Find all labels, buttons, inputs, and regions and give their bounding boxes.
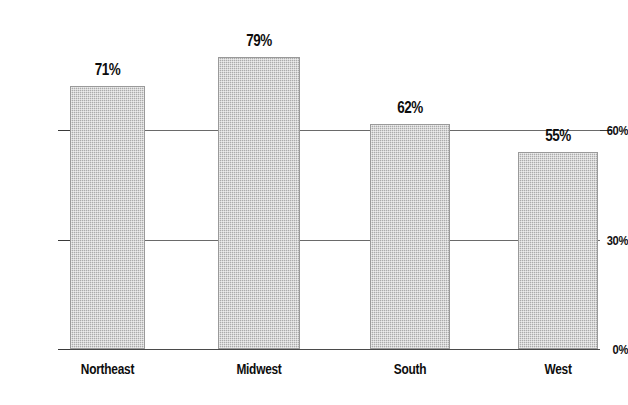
gridline-60 [70,130,600,131]
bar-chart: 0% 30% 60% 71% 79% 62% 55% Northeast Mid… [0,0,628,405]
value-label-south: 62% [376,100,443,116]
bar-northeast [70,86,145,349]
category-label-midwest: Midwest [218,362,300,376]
bar-midwest [218,57,300,349]
axis-baseline [70,349,600,350]
ytick-mark-60 [58,130,70,131]
category-label-west: West [518,362,598,376]
category-label-northeast: Northeast [67,362,148,376]
value-label-northeast: 71% [76,62,139,78]
category-label-south: South [370,362,450,376]
ytick-mark-30 [58,240,70,241]
ytick-mark-0 [58,349,70,350]
bar-south [370,124,450,349]
bar-west [518,152,598,349]
value-label-west: 55% [524,128,591,144]
plot-area: 0% 30% 60% 71% 79% 62% 55% Northeast Mid… [0,0,628,405]
value-label-midwest: 79% [225,33,294,49]
